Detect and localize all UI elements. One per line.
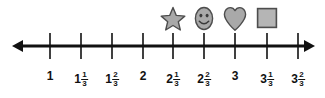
axis-line-group <box>12 40 315 52</box>
label-whole: 2 <box>197 73 204 85</box>
star-icon <box>160 6 186 32</box>
fraction-numerator: 2 <box>204 71 210 79</box>
label-whole: 3 <box>260 73 267 85</box>
fraction-denominator: 3 <box>173 79 179 88</box>
heart-icon <box>223 6 247 32</box>
tick-label-0: 1 <box>47 70 54 82</box>
fraction-numerator: 1 <box>267 71 273 79</box>
label-whole: 3 <box>291 73 298 85</box>
fraction-denominator: 3 <box>81 79 87 88</box>
arrow-right-icon <box>304 40 315 52</box>
label-whole: 1 <box>105 73 112 85</box>
label-fraction: 23 <box>298 71 304 89</box>
fraction-numerator: 2 <box>298 71 304 79</box>
arrow-left-icon <box>12 40 23 52</box>
tick-label-8: 323 <box>291 70 305 88</box>
fraction-numerator: 2 <box>112 71 118 79</box>
tick-label-4: 213 <box>166 70 180 88</box>
fraction-numerator: 1 <box>173 71 179 79</box>
fraction-denominator: 3 <box>267 79 273 88</box>
label-fraction: 13 <box>173 71 179 89</box>
number-line-figure: 111312322132233313323 <box>0 0 325 98</box>
label-whole: 1 <box>74 73 81 85</box>
tick-label-6: 3 <box>232 70 239 82</box>
tick-label-7: 313 <box>260 70 274 88</box>
fraction-denominator: 3 <box>204 79 210 88</box>
label-whole: 1 <box>47 70 54 82</box>
square-icon <box>256 6 278 30</box>
smiley-icon <box>193 6 215 32</box>
fraction-denominator: 3 <box>298 79 304 88</box>
label-fraction: 13 <box>267 71 273 89</box>
label-fraction: 23 <box>112 71 118 89</box>
fraction-denominator: 3 <box>112 79 118 88</box>
label-whole: 2 <box>166 73 173 85</box>
label-fraction: 23 <box>204 71 210 89</box>
tick-label-1: 113 <box>74 70 88 88</box>
label-fraction: 13 <box>81 71 87 89</box>
tick-label-5: 223 <box>197 70 211 88</box>
tick-label-3: 2 <box>140 70 147 82</box>
tick-label-2: 123 <box>105 70 119 88</box>
fraction-numerator: 1 <box>81 71 87 79</box>
label-whole: 2 <box>140 70 147 82</box>
label-whole: 3 <box>232 70 239 82</box>
